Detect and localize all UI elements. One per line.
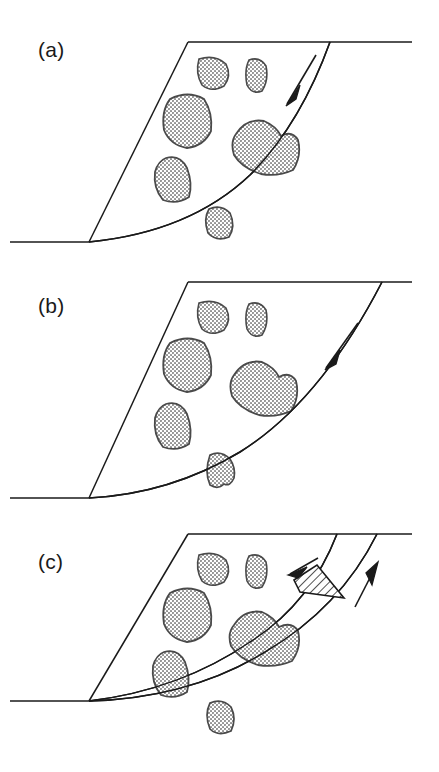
clast-large-center (230, 612, 300, 666)
clast-small-bottom (207, 701, 234, 733)
panel-label-c: (c) (38, 550, 63, 574)
clast-small-bottom (206, 207, 233, 239)
clast-small-upper-left (198, 553, 229, 585)
clast-group-c (153, 553, 299, 733)
clast-small-upper-right (246, 303, 267, 336)
panel-b: (b) (0, 256, 439, 514)
clast-medium-lower-left (155, 403, 191, 449)
shear-arrow-a (286, 55, 316, 106)
clast-small-upper-left (198, 301, 229, 333)
panel-c: (c) (0, 512, 439, 770)
panel-a: (a) (0, 0, 439, 258)
shear-arrow-c-right (355, 562, 378, 607)
clast-large-left (163, 95, 211, 149)
clast-medium-lower-left (155, 157, 191, 202)
panel-label-b: (b) (38, 294, 65, 318)
clast-large-center (230, 362, 297, 416)
left-edge-b (89, 282, 188, 498)
clast-large-left (163, 589, 211, 643)
outer-fault-c-overlay (89, 534, 377, 701)
arrow-head-b (325, 350, 340, 370)
clast-small-upper-right (246, 555, 267, 588)
clast-large-left (163, 339, 211, 393)
panel-label-a: (a) (38, 38, 65, 62)
clast-small-upper-right (246, 59, 267, 92)
arrow-head-a (286, 85, 300, 106)
outer-fault-c (89, 534, 377, 701)
arrow-shaft-a (287, 55, 316, 104)
clast-group-a (155, 57, 300, 238)
clast-large-center (232, 121, 299, 175)
clast-small-upper-left (198, 57, 229, 89)
figure-container: (a) (0, 0, 439, 772)
shear-arrow-b (325, 323, 358, 370)
